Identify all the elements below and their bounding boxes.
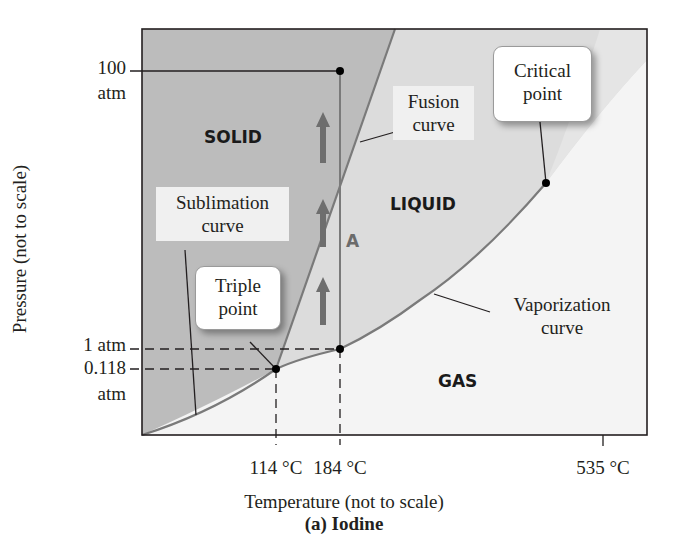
x-axis-label: Temperature (not to scale): [194, 490, 494, 513]
y-axis-label: Pressure (not to scale): [9, 99, 31, 399]
label-line: curve: [495, 316, 629, 339]
y-tick-100-atm: 100 atm: [60, 56, 126, 104]
label-line: Critical: [494, 59, 591, 82]
y-tick-line: 100: [60, 56, 126, 79]
triple-point-callout: Triple point: [195, 266, 281, 330]
point-100-atm: [336, 67, 344, 75]
y-tick-1-atm: 1 atm: [50, 333, 126, 356]
y-tick-0118-atm: 0.118 atm: [50, 356, 126, 405]
label-line: point: [196, 297, 280, 320]
triple-point: [272, 365, 280, 373]
region-label-gas: GAS: [438, 371, 477, 391]
label-line: Vaporization: [495, 293, 629, 316]
label-line: point: [494, 82, 591, 105]
vaporization-curve-label: Vaporization curve: [495, 289, 629, 343]
diagram-title: (a) Iodine: [294, 512, 394, 535]
region-label-solid: SOLID: [204, 127, 262, 147]
label-line: Fusion: [393, 90, 474, 113]
path-a-label: A: [346, 231, 359, 251]
x-tick-535: 535 °C: [563, 456, 643, 479]
label-line: curve: [156, 214, 289, 237]
y-tick-line: atm: [60, 81, 126, 104]
boiling-point: [336, 345, 344, 353]
y-tick-line: atm: [50, 382, 126, 405]
region-label-liquid: LIQUID: [390, 194, 456, 214]
fusion-curve-label: Fusion curve: [393, 86, 474, 140]
x-tick-184: 184 °C: [300, 456, 380, 479]
label-line: Triple: [196, 274, 280, 297]
label-line: Sublimation: [156, 191, 289, 214]
critical-point-callout: Critical point: [493, 46, 592, 122]
critical-point: [542, 179, 550, 187]
sublimation-curve-label: Sublimation curve: [156, 187, 289, 241]
y-tick-line: 0.118: [50, 356, 126, 379]
label-line: curve: [393, 113, 474, 136]
